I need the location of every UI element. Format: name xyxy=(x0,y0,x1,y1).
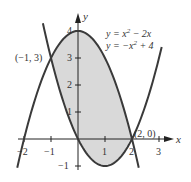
y-tick-label: 4 xyxy=(67,25,72,36)
y-tick-label: 3 xyxy=(67,52,72,63)
y-axis-label: y xyxy=(82,10,88,22)
point-label-right: (2, 0) xyxy=(134,128,156,140)
x-axis-label: x xyxy=(175,133,181,145)
legend-1-lhs: y = x xyxy=(105,28,127,39)
x-tick-label: −1 xyxy=(44,146,55,157)
svg-text:y = x2 − 2x: y = x2 − 2x xyxy=(105,27,152,39)
x-tick-label: 1 xyxy=(102,146,107,157)
x-tick-label: 3 xyxy=(156,146,161,157)
y-tick-label: 2 xyxy=(67,79,72,90)
legend-2-rhs: + 4 xyxy=(137,40,154,51)
x-tick-label: 2 xyxy=(129,146,134,157)
legend-1-rhs: − 2x xyxy=(130,28,152,39)
y-tick-label: 1 xyxy=(67,106,72,117)
legend-2-lhs: y = −x xyxy=(105,40,134,51)
parabola-region-chart: x y −2 −1 1 2 3 4 3 2 1 −1 (−1, 3) (2, 0… xyxy=(0,0,191,182)
x-axis-arrow-icon xyxy=(164,136,174,142)
svg-text:y = −x2 + 4: y = −x2 + 4 xyxy=(105,39,154,51)
y-axis-arrow-icon xyxy=(75,13,81,23)
point-label-left: (−1, 3) xyxy=(15,52,42,64)
legend: y = x2 − 2x y = −x2 + 4 xyxy=(105,27,154,51)
y-tick-label: −1 xyxy=(58,160,69,171)
x-tick-label: −2 xyxy=(17,146,28,157)
